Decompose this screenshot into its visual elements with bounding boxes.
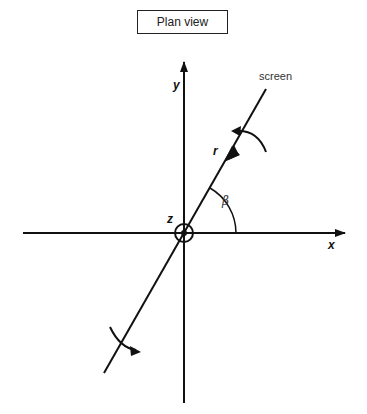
z-axis-dot [181,230,187,236]
plan-view-diagram [0,0,367,414]
x-axis-label: x [328,238,335,252]
beta-angle-label: β [222,194,229,208]
z-axis-label: z [167,212,173,226]
r-label: r [213,144,218,158]
screen-label: screen [259,70,292,82]
y-axis-label: y [173,78,180,92]
